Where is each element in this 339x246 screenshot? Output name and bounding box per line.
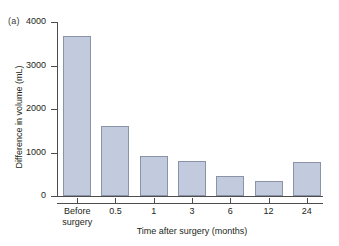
x-axis-baseline xyxy=(57,196,323,197)
bar xyxy=(101,126,129,196)
y-axis-tick-label: 3000 xyxy=(2,60,46,70)
x-axis-title: Time after surgery (months) xyxy=(58,226,326,236)
x-axis-tick xyxy=(230,198,231,203)
x-axis-tick xyxy=(307,198,308,203)
x-axis-tick xyxy=(192,198,193,203)
figure-panel: (a) Difference in volume (mL) 0100020003… xyxy=(0,0,339,246)
bar xyxy=(255,181,283,196)
x-axis-tick xyxy=(115,198,116,203)
x-axis-line xyxy=(57,203,323,204)
y-axis-tick-label: 0 xyxy=(2,190,46,200)
x-axis-tick-label-line: 24 xyxy=(275,206,339,217)
y-axis-tick-label: 1000 xyxy=(2,147,46,157)
y-axis-tick-label: 4000 xyxy=(2,16,46,26)
x-axis-tick xyxy=(154,198,155,203)
y-axis-tick xyxy=(51,22,57,23)
x-axis-tick xyxy=(269,198,270,203)
bar xyxy=(216,176,244,196)
x-axis-tick-label: 24 xyxy=(275,206,339,217)
y-axis-tick xyxy=(51,153,57,154)
bar xyxy=(178,161,206,196)
y-axis-tick-label: 2000 xyxy=(2,103,46,113)
bar xyxy=(140,156,168,196)
plot-area xyxy=(58,22,326,196)
bar xyxy=(63,36,91,196)
y-axis-tick xyxy=(51,109,57,110)
bar xyxy=(293,162,321,196)
y-axis-tick xyxy=(51,66,57,67)
x-axis-tick xyxy=(77,198,78,203)
y-axis-title: Difference in volume (mL) xyxy=(14,32,24,202)
